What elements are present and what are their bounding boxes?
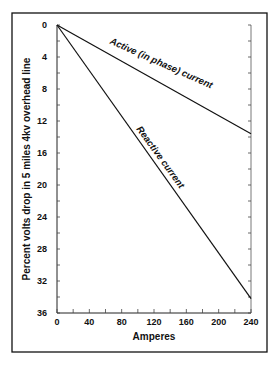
series-line-reactive [57, 25, 251, 299]
y-tick-label: 8 [42, 84, 47, 94]
y-tick-label: 0 [42, 20, 47, 30]
y-tick-label: 32 [37, 276, 47, 286]
x-tick-label: 120 [146, 317, 161, 327]
y-tick-label: 4 [42, 52, 47, 62]
y-tick-label: 36 [37, 308, 47, 318]
y-tick-label: 20 [37, 180, 47, 190]
x-axis-label: Amperes [133, 331, 176, 342]
x-tick-label: 200 [211, 317, 226, 327]
outer-frame [12, 13, 267, 352]
x-tick-label: 160 [179, 317, 194, 327]
chart: 0481216202428323604080120160200240 Amper… [0, 0, 278, 369]
x-tick-label: 240 [243, 317, 258, 327]
series-line-active [57, 25, 251, 134]
x-tick-label: 0 [54, 317, 59, 327]
y-axis-label: Percent volts drop in 5 miles 4kv overhe… [21, 57, 32, 280]
plot-area: 0481216202428323604080120160200240 [37, 20, 259, 327]
y-tick-label: 24 [37, 212, 47, 222]
annotation-reactive: Reactive current [135, 124, 188, 191]
x-tick-label: 80 [117, 317, 127, 327]
x-tick-label: 40 [84, 317, 94, 327]
y-tick-label: 12 [37, 116, 47, 126]
y-tick-label: 28 [37, 244, 47, 254]
y-tick-label: 16 [37, 148, 47, 158]
